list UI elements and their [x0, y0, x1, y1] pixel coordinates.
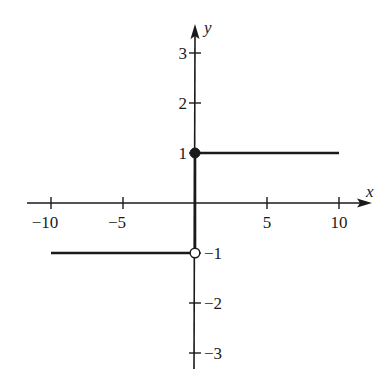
labels: −10−5510321−1−2−3xy	[32, 18, 374, 363]
y-tick-label: −1	[204, 244, 222, 263]
x-tick-label: 10	[331, 213, 348, 232]
y-tick-label: 1	[179, 144, 188, 163]
y-tick-label: −3	[204, 344, 222, 363]
y-tick-label: −2	[204, 294, 222, 313]
x-tick-label: −5	[108, 213, 126, 232]
y-tick-label: 3	[179, 44, 188, 63]
x-tick-label: −10	[32, 213, 59, 232]
step-function-plot: −10−5510321−1−2−3xy	[0, 0, 386, 387]
open-dot-icon	[190, 248, 200, 258]
y-tick-label: 2	[179, 94, 188, 113]
x-axis-label: x	[365, 182, 374, 201]
x-tick-label: 5	[263, 213, 272, 232]
closed-dot-icon	[190, 148, 200, 158]
y-axis-label: y	[202, 18, 212, 37]
axes	[27, 24, 372, 369]
